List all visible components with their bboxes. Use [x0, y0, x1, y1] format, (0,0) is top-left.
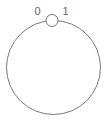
label-one: 1: [62, 5, 68, 17]
ring-circle: [7, 21, 101, 115]
ring-node: [46, 15, 58, 27]
label-zero: 0: [34, 5, 40, 17]
ring-diagram: 0 1: [0, 0, 106, 120]
